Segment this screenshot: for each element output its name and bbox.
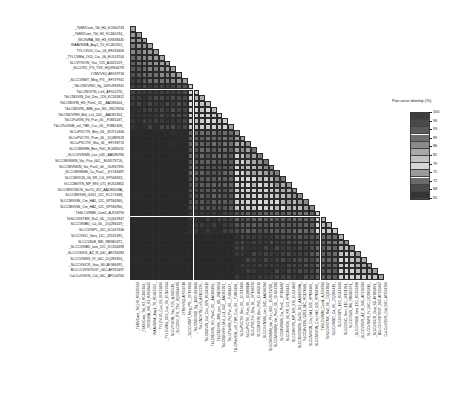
colorbar-tick <box>429 138 432 139</box>
colorbar-tick-label: 75 <box>433 170 437 174</box>
colorbar-tick <box>429 129 432 130</box>
colorbar-tick-label: 72 <box>433 179 437 183</box>
row-label: CuLCuVGVIS_Cal_06C_AFC04760 <box>70 274 125 280</box>
colorbar-swatch <box>411 192 429 199</box>
colorbar-swatch <box>411 142 429 149</box>
colorbar-swatch <box>411 120 429 127</box>
colorbar-tick <box>429 181 432 182</box>
colorbar-tick <box>429 121 432 122</box>
colorbar-tick-label: 79 <box>433 162 437 166</box>
matrix-cell <box>378 274 384 280</box>
column-label: CuLCuVGVIS_Cal_06C_AFC04760 <box>383 282 389 337</box>
colorbar-tick <box>429 198 432 199</box>
identity-matrix <box>130 26 384 280</box>
colorbar-swatch <box>411 163 429 170</box>
column-label-axis: _TbMVCam_Tbl_H0_KC660743_TbMVCam_Tbl_H2_… <box>130 282 384 404</box>
colorbar-tick-label: 82 <box>433 153 437 157</box>
colorbar-tick-label: 96 <box>433 119 437 123</box>
pairwise-identity-figure: _TbMVCam_Tbl_H0_KC660743_TbMVCam_Tbl_H2_… <box>0 0 462 410</box>
colorbar-tick-label: 68 <box>433 187 437 191</box>
colorbar-tick-label: 89 <box>433 136 437 140</box>
colorbar-tick-label: 86 <box>433 144 437 148</box>
colorbar-tick <box>429 112 432 113</box>
colorbar-tick <box>429 146 432 147</box>
colorbar-tick <box>429 164 432 165</box>
colorbar-tick <box>429 172 432 173</box>
colorbar-swatch <box>411 178 429 185</box>
colorbar-swatch <box>411 170 429 177</box>
colorbar-swatch <box>411 156 429 163</box>
colorbar-tick-label: 93 <box>433 127 437 131</box>
colorbar-gradient <box>410 112 430 200</box>
colorbar-swatch <box>411 185 429 192</box>
row-label-axis: _TbMVCam_Tbl_H0_KC660743_TbMVCam_Tbl_H2_… <box>0 26 126 280</box>
colorbar-tick <box>429 189 432 190</box>
colorbar-tick-label: 65 <box>433 196 437 200</box>
colorbar-tick <box>429 155 432 156</box>
colorbar-swatch <box>411 149 429 156</box>
colorbar-swatch <box>411 127 429 134</box>
colorbar-legend: Pair-wise identity (%) 10096938986827975… <box>392 98 462 218</box>
colorbar-swatch <box>411 113 429 120</box>
colorbar-tick-label: 100 <box>433 110 439 114</box>
colorbar-title: Pair-wise identity (%) <box>392 98 431 103</box>
colorbar-swatch <box>411 135 429 142</box>
